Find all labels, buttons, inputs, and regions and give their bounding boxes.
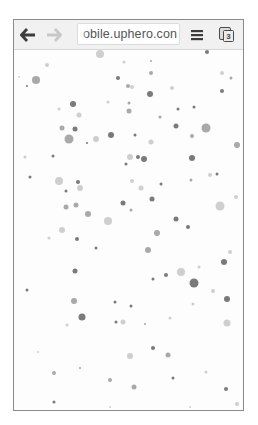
decorative-dot bbox=[29, 176, 32, 179]
decorative-dot bbox=[107, 101, 110, 104]
decorative-dot bbox=[151, 346, 155, 350]
decorative-dot bbox=[190, 279, 199, 288]
decorative-dot bbox=[58, 108, 61, 111]
decorative-dot bbox=[45, 63, 49, 67]
decorative-dot bbox=[139, 186, 144, 191]
decorative-dot bbox=[65, 190, 68, 193]
decorative-dot bbox=[216, 202, 225, 211]
decorative-dot bbox=[166, 353, 171, 358]
decorative-dot bbox=[221, 259, 227, 265]
decorative-dot bbox=[164, 273, 168, 277]
decorative-dot bbox=[125, 163, 128, 166]
decorative-dot bbox=[130, 209, 133, 212]
decorative-dot bbox=[109, 406, 111, 408]
decorative-dot bbox=[216, 173, 219, 176]
decorative-dot bbox=[234, 195, 238, 199]
page-content-dots bbox=[14, 50, 243, 410]
decorative-dot bbox=[52, 155, 55, 158]
menu-button[interactable] bbox=[185, 20, 209, 49]
decorative-dot bbox=[95, 247, 98, 250]
decorative-dot bbox=[108, 378, 112, 382]
back-button[interactable] bbox=[16, 20, 40, 49]
decorative-dot bbox=[74, 203, 79, 208]
decorative-dot bbox=[130, 85, 134, 89]
decorative-dot bbox=[108, 132, 114, 138]
arrow-right-icon bbox=[46, 28, 62, 42]
decorative-dot bbox=[224, 320, 231, 327]
decorative-dot bbox=[18, 76, 20, 78]
decorative-dot bbox=[147, 91, 153, 97]
decorative-dot bbox=[174, 217, 179, 222]
decorative-dot bbox=[186, 225, 190, 229]
browser-toolbar: obile.uphero.con 3 bbox=[14, 20, 243, 50]
decorative-dot bbox=[170, 86, 174, 90]
decorative-dot bbox=[144, 323, 146, 325]
decorative-dot bbox=[127, 353, 133, 359]
decorative-dot bbox=[71, 298, 77, 304]
decorative-dot bbox=[26, 85, 28, 87]
decorative-dot bbox=[26, 289, 29, 292]
decorative-dot bbox=[130, 305, 133, 308]
tab-count-badge: 3 bbox=[223, 30, 234, 42]
arrow-left-icon bbox=[20, 28, 36, 42]
decorative-dot bbox=[230, 77, 233, 80]
decorative-dot bbox=[149, 71, 153, 75]
decorative-dot bbox=[134, 134, 137, 137]
decorative-dot bbox=[130, 179, 134, 183]
decorative-dot bbox=[85, 211, 91, 217]
decorative-dot bbox=[220, 71, 224, 75]
decorative-dot bbox=[73, 269, 78, 274]
decorative-dot bbox=[192, 303, 195, 306]
decorative-dot bbox=[189, 406, 191, 408]
decorative-dot bbox=[132, 385, 137, 390]
decorative-dot bbox=[198, 266, 201, 269]
url-text: obile.uphero.con bbox=[83, 27, 177, 41]
decorative-dot bbox=[159, 116, 162, 119]
decorative-dot bbox=[123, 61, 126, 64]
hamburger-menu-icon bbox=[191, 29, 203, 41]
decorative-dot bbox=[224, 387, 228, 391]
decorative-dot bbox=[79, 367, 81, 369]
decorative-dot bbox=[150, 60, 152, 62]
decorative-dot bbox=[154, 230, 160, 236]
decorative-dot bbox=[114, 301, 117, 304]
decorative-dot bbox=[76, 180, 80, 184]
decorative-dot bbox=[211, 289, 215, 293]
forward-button[interactable] bbox=[42, 20, 66, 49]
decorative-dot bbox=[152, 278, 155, 281]
decorative-dot bbox=[59, 227, 65, 233]
decorative-dot bbox=[24, 156, 27, 159]
decorative-dot bbox=[177, 108, 180, 111]
decorative-dot bbox=[60, 126, 65, 131]
decorative-dot bbox=[172, 377, 175, 380]
decorative-dot bbox=[127, 154, 133, 160]
decorative-dot bbox=[160, 183, 163, 186]
decorative-dot bbox=[104, 217, 112, 225]
decorative-dot bbox=[202, 124, 211, 133]
decorative-dot bbox=[121, 201, 126, 206]
decorative-dot bbox=[37, 351, 39, 353]
tab-switcher-button[interactable]: 3 bbox=[214, 20, 240, 49]
browser-window: obile.uphero.con 3 bbox=[13, 19, 244, 411]
decorative-dot bbox=[128, 102, 131, 105]
decorative-dot bbox=[235, 402, 239, 406]
decorative-dot bbox=[64, 205, 69, 210]
decorative-dot bbox=[205, 50, 209, 54]
decorative-dot bbox=[55, 177, 63, 185]
decorative-dot bbox=[70, 101, 76, 107]
decorative-dot bbox=[169, 317, 172, 320]
decorative-dot bbox=[205, 371, 208, 374]
decorative-dot bbox=[65, 135, 74, 144]
url-fade bbox=[78, 24, 88, 44]
decorative-dot bbox=[136, 155, 140, 159]
decorative-dot bbox=[77, 185, 83, 191]
decorative-dot bbox=[145, 247, 151, 253]
url-bar[interactable]: obile.uphero.con bbox=[77, 23, 180, 45]
decorative-dot bbox=[189, 155, 195, 161]
decorative-dot bbox=[224, 296, 230, 302]
decorative-dot bbox=[208, 173, 212, 177]
decorative-dot bbox=[149, 140, 154, 145]
decorative-dot bbox=[93, 136, 99, 142]
decorative-dot bbox=[177, 268, 185, 276]
decorative-dot bbox=[75, 237, 79, 241]
